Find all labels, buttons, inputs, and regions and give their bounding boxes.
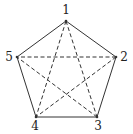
vertex-1 — [65, 20, 68, 23]
vertex-label-5: 5 — [5, 50, 13, 64]
vertex-label-4: 4 — [31, 119, 39, 133]
vertex-3 — [96, 116, 99, 119]
vertex-4 — [35, 116, 38, 119]
solid-edge-4-5 — [17, 57, 36, 117]
solid-edge-5-1 — [17, 21, 66, 57]
solid-edge-1-2 — [66, 21, 116, 57]
vertex-5 — [16, 56, 19, 59]
pentagon-graph-diagram: 12345 — [0, 0, 133, 134]
vertex-label-3: 3 — [94, 119, 102, 133]
dashed-edge-1-3 — [66, 21, 97, 117]
vertex-label-1: 1 — [62, 3, 70, 17]
solid-edge-2-3 — [97, 57, 116, 117]
solid-edges — [17, 21, 116, 117]
vertex-label-2: 2 — [120, 50, 128, 64]
dashed-edge-3-5 — [17, 57, 97, 117]
dashed-edge-2-4 — [36, 57, 116, 117]
vertex-2 — [115, 56, 118, 59]
dashed-edge-1-4 — [36, 21, 66, 117]
